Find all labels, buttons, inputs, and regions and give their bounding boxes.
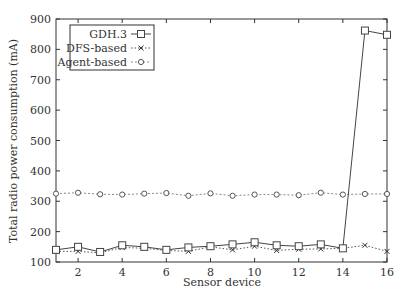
square-marker (207, 243, 214, 250)
circle-marker (208, 191, 213, 196)
square-marker (75, 243, 82, 250)
legend-label: DFS-based (66, 42, 127, 55)
y-tick-label: 400 (30, 165, 51, 178)
circle-marker (340, 192, 345, 197)
legend-label: Agent-based (56, 56, 127, 69)
y-tick-label: 700 (30, 74, 51, 87)
square-marker (384, 31, 391, 38)
circle-marker (318, 190, 323, 195)
circle-marker (75, 190, 80, 195)
circle-marker (164, 190, 169, 195)
circle-marker (142, 191, 147, 196)
square-marker (339, 245, 346, 252)
legend: GDH.3DFS-basedAgent-based (56, 25, 154, 70)
square-marker (141, 243, 148, 250)
x-tick-label: 12 (292, 266, 306, 279)
circle-marker (53, 191, 58, 196)
y-tick-label: 800 (30, 43, 51, 56)
circle-marker (296, 193, 301, 198)
y-tick-label: 900 (30, 13, 51, 26)
line-chart: 100200300400500600700800900246810121416 … (0, 0, 408, 303)
square-marker (163, 246, 170, 253)
x-tick-label: 16 (380, 266, 394, 279)
circle-marker (120, 192, 125, 197)
square-marker (295, 243, 302, 250)
square-marker (361, 27, 368, 34)
square-marker (119, 242, 126, 249)
series-line (56, 193, 387, 196)
square-marker (273, 242, 280, 249)
circle-marker (384, 191, 389, 196)
square-marker (185, 244, 192, 251)
x-tick-label: 14 (336, 266, 350, 279)
square-marker (251, 239, 258, 246)
x-axis-label: Sensor device (183, 276, 261, 289)
y-tick-label: 200 (30, 226, 51, 239)
y-tick-label: 300 (30, 195, 51, 208)
circle-marker (274, 192, 279, 197)
series-line (56, 245, 387, 253)
square-marker (138, 31, 145, 38)
circle-marker (138, 59, 143, 64)
y-tick-label: 500 (30, 135, 51, 148)
circle-marker (252, 192, 257, 197)
circle-marker (98, 192, 103, 197)
square-marker (229, 241, 236, 248)
circle-marker (362, 191, 367, 196)
y-tick-label: 600 (30, 104, 51, 117)
y-tick-label: 100 (30, 256, 51, 269)
square-marker (317, 241, 324, 248)
circle-marker (186, 193, 191, 198)
series-agent-based (53, 190, 389, 198)
y-axis-label: Total radio power consumption (mA) (7, 39, 20, 243)
x-tick-label: 2 (75, 266, 82, 279)
square-marker (97, 248, 104, 255)
square-marker (53, 246, 60, 253)
x-tick-label: 6 (163, 266, 170, 279)
x-tick-label: 4 (119, 266, 126, 279)
legend-label: GDH.3 (89, 28, 127, 41)
circle-marker (230, 193, 235, 198)
